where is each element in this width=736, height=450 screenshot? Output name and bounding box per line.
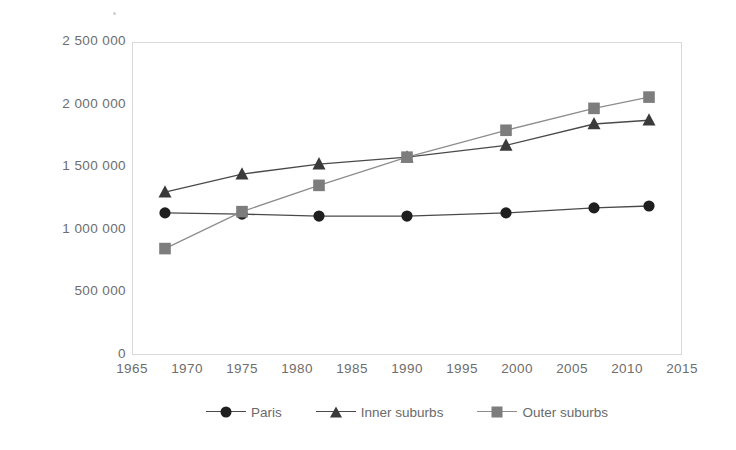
x-axis-tick-label: 1970 xyxy=(157,361,217,376)
legend-triangle-icon xyxy=(316,405,356,419)
x-axis-tick-labels: 1965197019751980198519901995200020052010… xyxy=(0,361,736,385)
chart-root: 2 500 0002 000 0001 500 0001 000 000500 … xyxy=(0,0,736,450)
x-axis-tick-label: 2010 xyxy=(597,361,657,376)
plot-area-frame xyxy=(132,42,682,355)
legend-label: Paris xyxy=(251,405,282,420)
x-axis-tick-label: 2005 xyxy=(542,361,602,376)
y-axis-tick-label: 500 000 xyxy=(6,283,126,298)
legend-entry-paris[interactable]: Paris xyxy=(206,405,282,420)
legend-marker xyxy=(330,407,342,418)
x-axis-tick-label: 1995 xyxy=(432,361,492,376)
x-axis-tick-label: 2015 xyxy=(652,361,712,376)
x-axis-tick-label: 1975 xyxy=(212,361,272,376)
y-axis-tick-label: 2 500 000 xyxy=(6,33,126,48)
x-axis-tick-label: 1985 xyxy=(322,361,382,376)
legend-marker xyxy=(492,407,503,418)
y-axis-tick-label: 1 500 000 xyxy=(6,158,126,173)
legend-marker xyxy=(221,407,232,418)
legend-label: Inner suburbs xyxy=(361,405,444,420)
chart-legend: ParisInner suburbsOuter suburbs xyxy=(132,398,682,426)
y-axis-tick-label: 1 000 000 xyxy=(6,221,126,236)
legend-entry-inner-suburbs[interactable]: Inner suburbs xyxy=(316,405,444,420)
x-axis-tick-label: 1965 xyxy=(102,361,162,376)
legend-square-icon xyxy=(477,405,517,419)
legend-circle-icon xyxy=(206,405,246,419)
legend-entry-outer-suburbs[interactable]: Outer suburbs xyxy=(477,405,608,420)
legend-label: Outer suburbs xyxy=(522,405,608,420)
y-axis-tick-label: 0 xyxy=(6,346,126,361)
x-axis-tick-label: 1990 xyxy=(377,361,437,376)
x-axis-tick-label: 2000 xyxy=(487,361,547,376)
y-axis-tick-label: 2 000 000 xyxy=(6,96,126,111)
x-axis-tick-label: 1980 xyxy=(267,361,327,376)
